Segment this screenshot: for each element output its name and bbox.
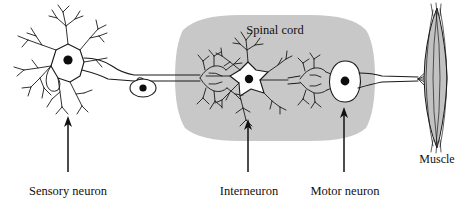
- callout-arrow-interneuron: [244, 119, 252, 172]
- label-muscle: Muscle: [419, 152, 454, 166]
- muscle-fiber: [424, 3, 447, 153]
- callout-arrow-motor-neuron: [340, 107, 348, 172]
- motor-neuron: [330, 61, 361, 102]
- callout-arrow-sensory-neuron: [64, 116, 72, 172]
- label-sensory-neuron: Sensory neuron: [29, 184, 108, 198]
- ganglion-nucleus: [139, 84, 146, 91]
- label-spinal-cord: Spinal cord: [246, 23, 304, 37]
- sensory-neuron: [14, 5, 107, 114]
- label-motor-neuron: Motor neuron: [310, 184, 380, 198]
- diagram-canvas: Spinal cord Muscle Sensory neuron Intern…: [0, 0, 469, 216]
- motor-neuron-nucleus: [341, 77, 350, 86]
- interneuron-nucleus: [245, 75, 253, 83]
- sensory-neuron-nucleus: [63, 55, 72, 64]
- label-interneuron: Interneuron: [220, 184, 279, 198]
- reflex-arc-diagram: Spinal cord Muscle Sensory neuron Intern…: [0, 0, 469, 216]
